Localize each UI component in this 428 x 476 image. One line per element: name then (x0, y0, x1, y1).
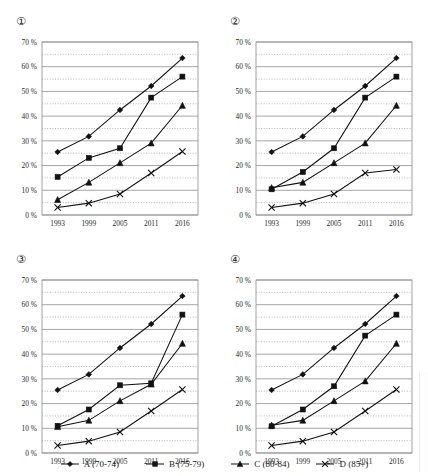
svg-text:1993: 1993 (50, 219, 65, 228)
legend-label-c: C (80-84) (254, 459, 289, 469)
legend-item-c: C (80-84) (230, 459, 289, 469)
svg-text:50 %: 50 % (22, 87, 37, 96)
svg-text:40 %: 40 % (22, 350, 37, 359)
svg-text:50 %: 50 % (236, 325, 251, 334)
svg-text:30 %: 30 % (236, 375, 251, 384)
svg-text:60 %: 60 % (22, 62, 37, 71)
svg-text:30 %: 30 % (22, 137, 37, 146)
chart-2-number: ② (230, 16, 240, 27)
svg-text:2005: 2005 (113, 219, 128, 228)
svg-text:30 %: 30 % (22, 375, 37, 384)
svg-text:70 %: 70 % (22, 38, 37, 47)
chart-3-number: ③ (16, 254, 26, 265)
legend-item-b: B (75-79) (145, 459, 204, 469)
svg-text:50 %: 50 % (22, 325, 37, 334)
svg-text:0 %: 0 % (25, 211, 37, 220)
chart-4-number: ④ (230, 254, 240, 265)
svg-text:2011: 2011 (144, 219, 159, 228)
svg-text:1999: 1999 (81, 219, 96, 228)
svg-text:2016: 2016 (389, 219, 404, 228)
svg-text:70 %: 70 % (22, 276, 37, 285)
legend-label-d: D (85+) (339, 459, 368, 469)
triangle-marker-icon (230, 459, 250, 469)
svg-text:60 %: 60 % (22, 300, 37, 309)
svg-text:10 %: 10 % (236, 186, 251, 195)
svg-text:60 %: 60 % (236, 300, 251, 309)
chart-legend: A (70-74) B (75-79) C (80-84) D (85+) (0, 452, 428, 476)
chart-panel-2: ② 0 %10 %20 %30 %40 %50 %60 %70 %1993199… (214, 12, 428, 250)
svg-text:0 %: 0 % (239, 211, 251, 220)
svg-text:2011: 2011 (358, 219, 373, 228)
svg-text:40 %: 40 % (236, 112, 251, 121)
diamond-marker-icon (60, 459, 80, 469)
chart-4-plot: 0 %10 %20 %30 %40 %50 %60 %70 %199319992… (222, 272, 422, 476)
svg-text:1993: 1993 (264, 219, 279, 228)
svg-text:20 %: 20 % (22, 399, 37, 408)
chart-panel-3: ③ 0 %10 %20 %30 %40 %50 %60 %70 %1993199… (0, 250, 214, 452)
svg-text:2016: 2016 (175, 219, 190, 228)
chart-1-number: ① (16, 16, 26, 27)
svg-text:2005: 2005 (327, 219, 342, 228)
svg-text:70 %: 70 % (236, 276, 251, 285)
square-marker-icon (145, 459, 165, 469)
svg-text:20 %: 20 % (22, 161, 37, 170)
svg-text:40 %: 40 % (236, 350, 251, 359)
legend-item-a: A (70-74) (60, 459, 119, 469)
svg-text:50 %: 50 % (236, 87, 251, 96)
page-edge-artifact (419, 372, 428, 472)
svg-text:30 %: 30 % (236, 137, 251, 146)
legend-item-d: D (85+) (315, 459, 368, 469)
svg-text:40 %: 40 % (22, 112, 37, 121)
legend-label-b: B (75-79) (169, 459, 204, 469)
legend-label-a: A (70-74) (84, 459, 119, 469)
svg-text:1999: 1999 (295, 219, 310, 228)
svg-text:20 %: 20 % (236, 161, 251, 170)
svg-text:10 %: 10 % (22, 186, 37, 195)
chart-2-plot: 0 %10 %20 %30 %40 %50 %60 %70 %199319992… (222, 34, 422, 239)
cross-marker-icon (315, 459, 335, 469)
chart-panel-1: ① 0 %10 %20 %30 %40 %50 %60 %70 %1993199… (0, 12, 214, 250)
svg-text:10 %: 10 % (22, 424, 37, 433)
charts-grid: ① 0 %10 %20 %30 %40 %50 %60 %70 %1993199… (0, 12, 428, 452)
svg-text:10 %: 10 % (236, 424, 251, 433)
chart-panel-4: ④ 0 %10 %20 %30 %40 %50 %60 %70 %1993199… (214, 250, 428, 452)
chart-1-plot: 0 %10 %20 %30 %40 %50 %60 %70 %199319992… (8, 34, 208, 239)
svg-text:20 %: 20 % (236, 399, 251, 408)
chart-3-plot: 0 %10 %20 %30 %40 %50 %60 %70 %199319992… (8, 272, 208, 476)
svg-text:70 %: 70 % (236, 38, 251, 47)
svg-text:60 %: 60 % (236, 62, 251, 71)
